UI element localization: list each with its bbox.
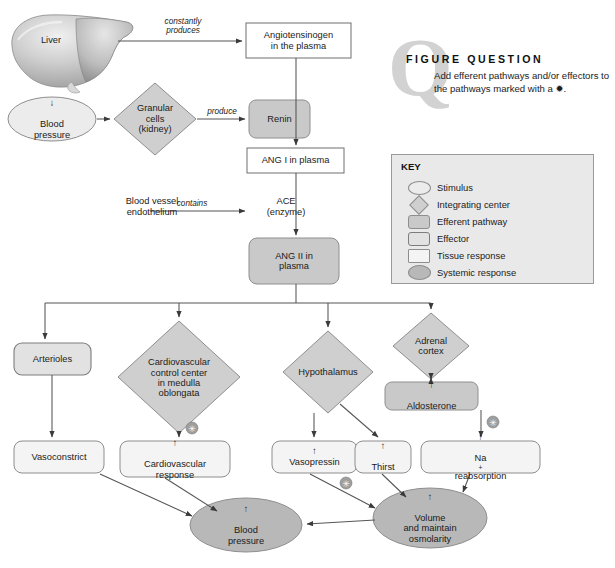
node-cv-response-shape xyxy=(120,441,230,477)
figure-question: Q FIGURE QUESTION Add efferent pathways … xyxy=(388,24,615,134)
node-vasopressin-shape xyxy=(272,441,357,473)
node-blood-pressure-low-shape xyxy=(8,97,96,141)
key-item-efferent-pathway: Efferent pathway xyxy=(401,213,507,230)
key-item-tissue-response: Tissue response xyxy=(401,247,505,264)
node-hypothalamus-shape xyxy=(283,331,373,413)
edge-label-constantly-produces: constantly produces xyxy=(147,17,219,36)
svg-text:✳: ✳ xyxy=(188,424,196,434)
key-item-label: Efferent pathway xyxy=(437,216,507,227)
node-thirst-shape xyxy=(355,441,411,473)
efferent-pathway-swatch-icon xyxy=(401,215,437,229)
node-adrenal-cortex-shape xyxy=(393,313,469,379)
tissue-response-swatch-icon xyxy=(401,249,437,263)
node-blood-pressure-up-shape xyxy=(190,498,302,552)
effector-swatch-icon xyxy=(401,232,437,246)
star-marker-vasopressin: ✳ xyxy=(340,477,352,489)
key-item-label: Systemic response xyxy=(437,267,516,278)
key-item-label: Integrating center xyxy=(437,199,510,210)
node-ang-ii-shape xyxy=(249,238,339,284)
node-volume-osmolarity-shape xyxy=(373,488,487,548)
key-title: KEY xyxy=(401,161,421,172)
star-marker-na-reabsorption: ✳ xyxy=(487,416,499,428)
key-item-label: Effector xyxy=(437,233,469,244)
key-item-integrating-center: Integrating center xyxy=(401,196,510,213)
node-na-reabsorption-shape xyxy=(421,441,540,473)
liver-illustration xyxy=(12,15,133,93)
svg-text:✳: ✳ xyxy=(489,418,497,428)
integrating-center-swatch-icon xyxy=(401,198,437,212)
diagram-canvas: ✳ ✳ ✳ Liver Angiotensinogen in the plasm… xyxy=(0,0,615,568)
key-item-label: Stimulus xyxy=(437,182,473,193)
node-angiotensinogen-shape xyxy=(246,23,351,58)
figure-question-body: Add efferent pathways and/or effectors t… xyxy=(434,70,610,96)
node-granular-cells-shape xyxy=(114,83,196,155)
key-item-stimulus: Stimulus xyxy=(401,179,473,196)
edge-label-contains: contains xyxy=(165,199,219,208)
node-arterioles-shape xyxy=(14,343,91,375)
node-ang-i-shape xyxy=(247,148,344,173)
systemic-response-swatch-icon xyxy=(401,265,437,280)
key-legend: KEY Stimulus Integrating center Efferent… xyxy=(391,154,594,284)
node-aldosterone-shape xyxy=(385,382,478,410)
figure-question-title: FIGURE QUESTION xyxy=(406,53,543,65)
q-watermark-letter: Q xyxy=(388,26,453,109)
key-item-systemic-response: Systemic response xyxy=(401,264,516,281)
fanout-bar xyxy=(45,284,431,303)
star-marker-cv-response: ✳ xyxy=(186,422,198,434)
edge-label-produce: produce xyxy=(200,107,244,116)
node-ace-label: ACE (enzyme) xyxy=(255,196,317,217)
node-cv-control-center-shape xyxy=(118,321,240,433)
key-item-label: Tissue response xyxy=(437,250,505,261)
node-renin-shape xyxy=(249,100,310,138)
node-vasoconstrict-shape xyxy=(14,441,104,473)
svg-text:✳: ✳ xyxy=(342,479,350,489)
key-item-effector: Effector xyxy=(401,230,469,247)
stimulus-swatch-icon xyxy=(401,181,437,195)
